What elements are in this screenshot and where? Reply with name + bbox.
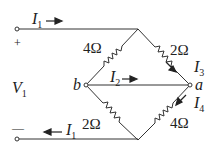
arrow-right-icon: [130, 76, 137, 82]
label-i1-bottom: I1: [65, 121, 76, 141]
label-r-top-right: 2Ω: [170, 42, 189, 58]
resistor-bottom-right: [138, 85, 190, 140]
circuit-diagram: I1 + V1 — I1 4Ω 2Ω 2Ω 4Ω b a I2 I3 I4: [0, 0, 217, 154]
plus-sign: +: [14, 36, 21, 50]
terminal-minus: [15, 137, 19, 141]
label-v1: V1: [12, 79, 27, 99]
label-i1-top: I1: [31, 10, 42, 30]
label-r-bottom-left: 2Ω: [82, 116, 101, 132]
label-node-a: a: [195, 76, 203, 93]
label-node-b: b: [73, 76, 81, 93]
label-r-top-left: 4Ω: [83, 40, 102, 56]
arrow-left-icon: [44, 129, 51, 135]
arrow-right-icon: [55, 18, 62, 24]
node-b: [84, 83, 88, 87]
minus-sign: —: [11, 121, 25, 135]
label-i3: I3: [193, 58, 204, 78]
node-a: [188, 83, 192, 87]
label-i4: I4: [193, 94, 204, 114]
label-r-bottom-right: 4Ω: [170, 115, 189, 131]
terminal-plus: [15, 27, 19, 31]
arrow-down-right-icon: [169, 66, 176, 72]
